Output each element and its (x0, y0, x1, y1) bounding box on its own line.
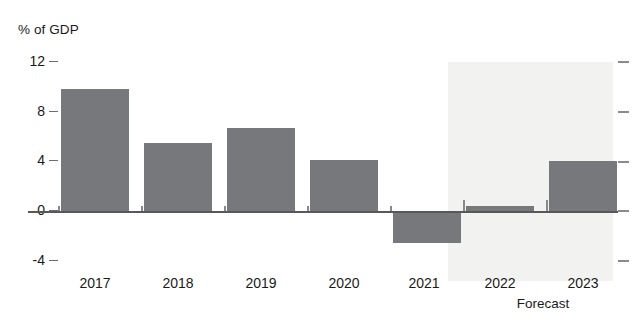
y-tick-right-8 (618, 111, 629, 113)
bar-2021 (393, 213, 461, 243)
y-tick-12: 12 (8, 53, 58, 69)
y-tick-right-12 (618, 61, 629, 63)
bar-2019 (227, 128, 295, 211)
y-tick-8: 8 (8, 103, 58, 119)
y-tick-0: 0 (8, 202, 58, 218)
y-tick-minus4-label: -4 (33, 252, 45, 268)
x-label-2022: 2022 (466, 275, 534, 291)
bar-2020 (310, 160, 378, 211)
y-tick-4: 4 (8, 152, 58, 168)
x-label-2017: 2017 (61, 275, 129, 291)
x-label-2018: 2018 (144, 275, 212, 291)
y-tick-4-dash (49, 160, 58, 162)
forecast-caption: Forecast (468, 296, 618, 311)
x-tick-5 (463, 200, 465, 211)
bar-chart: % of GDP 12 8 4 0 -4 (0, 0, 641, 331)
y-tick-right-minus4 (618, 260, 629, 262)
bar-2018 (144, 143, 212, 211)
zero-baseline (28, 211, 618, 213)
bar-2017 (61, 89, 129, 211)
y-tick-minus4: -4 (8, 252, 58, 268)
y-tick-12-label: 12 (29, 53, 45, 69)
y-tick-8-dash (49, 111, 58, 113)
y-tick-minus4-dash (49, 260, 58, 262)
bar-2023 (549, 161, 617, 211)
x-label-2023: 2023 (549, 275, 617, 291)
y-tick-right-4 (618, 161, 629, 163)
y-tick-12-dash (49, 61, 58, 63)
plot-area: 12 8 4 0 -4 (0, 0, 641, 331)
y-tick-right-0 (618, 210, 629, 212)
y-tick-4-label: 4 (37, 152, 45, 168)
x-tick-6 (546, 200, 548, 211)
x-label-2020: 2020 (310, 275, 378, 291)
x-label-2021: 2021 (390, 275, 458, 291)
y-tick-8-label: 8 (37, 103, 45, 119)
y-tick-0-label: 0 (37, 202, 45, 218)
x-label-2019: 2019 (227, 275, 295, 291)
